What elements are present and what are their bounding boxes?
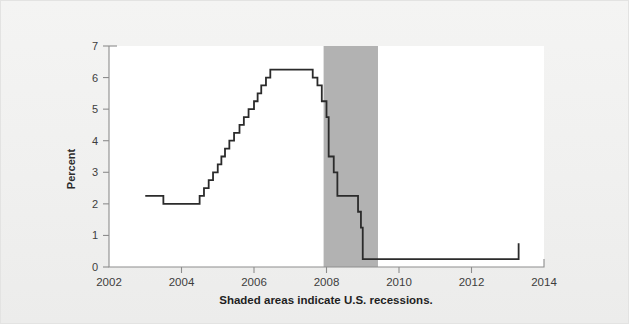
y-tick-label: 0: [92, 261, 98, 273]
x-tick-label: 2008: [314, 276, 340, 288]
x-tick-label: 2014: [531, 276, 557, 288]
x-tick-label: 2006: [241, 276, 267, 288]
y-tick-label: 6: [92, 72, 98, 84]
y-tick-label: 2: [92, 198, 98, 210]
y-tick-label: 5: [92, 103, 98, 115]
y-tick-label: 3: [92, 166, 98, 178]
y-tick-label: 1: [92, 229, 98, 241]
y-tick-label: 4: [92, 135, 98, 147]
y-axis: 01234567: [92, 40, 109, 273]
x-tick-label: 2004: [169, 276, 195, 288]
x-tick-label: 2002: [96, 276, 122, 288]
y-axis-title: Percent: [65, 148, 77, 189]
x-axis: 2002200420062008201020122014: [96, 267, 557, 288]
chart-canvas: 01234567 2002200420062008201020122014 Pe…: [1, 1, 629, 324]
x-tick-label: 2010: [386, 276, 412, 288]
x-tick-label: 2012: [459, 276, 485, 288]
chart-caption: Shaded areas indicate U.S. recessions.: [219, 294, 433, 306]
chart-figure: 01234567 2002200420062008201020122014 Pe…: [0, 0, 629, 324]
y-tick-label: 7: [92, 40, 98, 52]
